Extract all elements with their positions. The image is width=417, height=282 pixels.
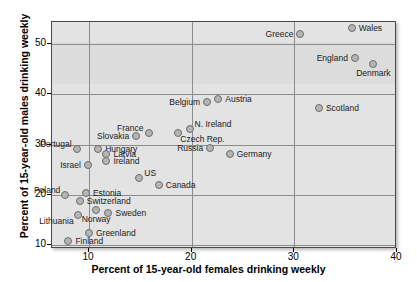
data-point-label: Lithuania <box>39 217 74 226</box>
data-point-label: Canada <box>166 181 196 190</box>
data-point <box>61 191 69 199</box>
x-axis-tick-label: 40 <box>390 251 401 262</box>
x-axis-tick-label: 30 <box>288 251 299 262</box>
data-point-label: N. Ireland <box>195 120 232 129</box>
data-point-label: Greece <box>266 29 294 38</box>
x-axis-tick-label: 20 <box>185 251 196 262</box>
data-point-label: Austria <box>225 94 251 103</box>
data-point <box>84 161 92 169</box>
data-point <box>132 132 140 140</box>
data-point <box>145 129 153 137</box>
data-point <box>94 145 102 153</box>
y-axis-label: Percent of 15-year-old males drinking we… <box>18 6 30 246</box>
data-point <box>296 30 304 38</box>
y-axis-tick-mark <box>47 144 51 145</box>
gridline-vertical <box>294 22 295 247</box>
y-axis-tick-label: 40 <box>35 87 46 98</box>
data-point-label: Switzerland <box>87 197 131 206</box>
data-point <box>203 98 211 106</box>
x-axis-tick-mark <box>88 248 89 252</box>
data-point-label: Wales <box>359 23 382 32</box>
data-point <box>102 157 110 165</box>
gridline-horizontal <box>52 245 395 246</box>
data-point <box>226 150 234 158</box>
y-axis-tick-mark <box>47 244 51 245</box>
data-point-label: Sweden <box>115 209 146 218</box>
data-point-label: Russia <box>177 144 203 153</box>
y-axis-tick-label: 20 <box>35 188 46 199</box>
gridline-horizontal <box>52 94 395 95</box>
data-point-label: Denmark <box>356 69 390 78</box>
y-axis-tick-mark <box>47 194 51 195</box>
data-point <box>104 209 112 217</box>
data-point <box>155 181 163 189</box>
y-axis-tick-label: 30 <box>35 138 46 149</box>
data-point-label: Israel <box>60 161 81 170</box>
gridline-horizontal <box>52 44 395 45</box>
data-point-label: US <box>144 169 156 178</box>
data-point-label: Belgium <box>169 97 200 106</box>
data-point <box>348 24 356 32</box>
data-point <box>214 95 222 103</box>
scatter-plot-figure: WalesGreeceEnglandDenmarkScotlandAustria… <box>0 0 417 282</box>
data-point <box>73 145 81 153</box>
y-axis-tick-label: 10 <box>35 238 46 249</box>
plot-area: WalesGreeceEnglandDenmarkScotlandAustria… <box>51 21 396 248</box>
data-point-label: Slovakia <box>97 132 129 141</box>
gridline-horizontal <box>52 145 395 146</box>
data-point-label: England <box>317 54 348 63</box>
x-axis-tick-mark <box>396 248 397 252</box>
y-axis-tick-label: 50 <box>35 37 46 48</box>
x-axis-tick-mark <box>191 248 192 252</box>
data-point-label: Finland <box>75 237 103 246</box>
data-point <box>135 174 143 182</box>
data-point-label: Scotland <box>326 104 359 113</box>
y-axis-tick-mark <box>47 93 51 94</box>
data-point <box>64 237 72 245</box>
data-point-label: Germany <box>237 150 272 159</box>
data-point <box>206 144 214 152</box>
x-axis-tick-mark <box>293 248 294 252</box>
x-axis-tick-label: 10 <box>82 251 93 262</box>
y-axis-tick-mark <box>47 43 51 44</box>
data-point-label: Ireland <box>113 156 139 165</box>
data-point <box>315 104 323 112</box>
data-point <box>74 211 82 219</box>
data-point <box>76 197 84 205</box>
data-point <box>92 206 100 214</box>
shaded-band <box>52 42 395 84</box>
x-axis-label: Percent of 15-year-old females drinking … <box>0 263 417 275</box>
